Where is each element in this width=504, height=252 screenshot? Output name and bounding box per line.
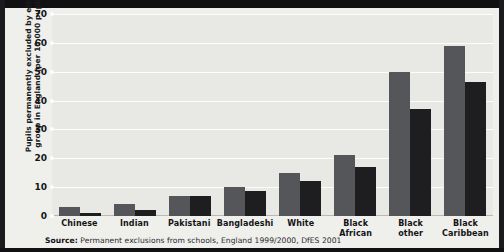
y-tick-label: 70 <box>34 9 47 19</box>
y-tick-label: 10 <box>34 182 47 192</box>
source-text: Permanent exclusions from schools, Engla… <box>80 236 341 245</box>
bottom-border-band <box>0 248 504 252</box>
bar-group <box>107 14 162 216</box>
bar <box>80 213 101 216</box>
bar <box>190 196 211 216</box>
y-axis-title-line1: Pupils permanently excluded by ethnic <box>24 0 33 152</box>
bar <box>169 196 190 216</box>
y-tick-label: 30 <box>34 124 47 134</box>
bar <box>389 72 410 216</box>
x-axis-label: Blackother <box>383 219 438 243</box>
bar-group <box>162 14 217 216</box>
bar <box>114 204 135 216</box>
bar-group <box>328 14 383 216</box>
x-axis-label: BlackCaribbean <box>438 219 493 243</box>
plot-area: 010203040506070 <box>52 14 493 216</box>
source-prefix: Source: <box>45 236 78 245</box>
bar <box>224 187 245 216</box>
y-tick-label: 60 <box>34 38 47 48</box>
bar <box>355 167 376 216</box>
right-border-rail <box>499 0 504 252</box>
source-note: Source: Permanent exclusions from school… <box>45 236 341 245</box>
bar-groups <box>52 14 493 216</box>
bar <box>410 109 431 216</box>
top-border-band <box>0 0 504 8</box>
y-tick-label: 0 <box>41 211 47 221</box>
bar <box>334 155 355 216</box>
bar-group <box>438 14 493 216</box>
bar-group <box>52 14 107 216</box>
y-tick-label: 20 <box>34 153 47 163</box>
bar-group <box>217 14 272 216</box>
bar <box>59 207 80 216</box>
bar <box>135 210 156 216</box>
y-tick-label: 40 <box>34 96 47 106</box>
bar-group <box>273 14 328 216</box>
bar-group <box>383 14 438 216</box>
y-tick-label: 50 <box>34 67 47 77</box>
bar <box>245 191 266 216</box>
bar <box>465 82 486 216</box>
bar <box>279 173 300 216</box>
y-axis-title: Pupils permanently excluded by ethnic gr… <box>24 0 42 159</box>
chart-figure: Pupils permanently excluded by ethnic gr… <box>5 8 499 248</box>
bar <box>300 181 321 216</box>
figure-page: Pupils permanently excluded by ethnic gr… <box>0 0 504 252</box>
bar <box>444 46 465 216</box>
